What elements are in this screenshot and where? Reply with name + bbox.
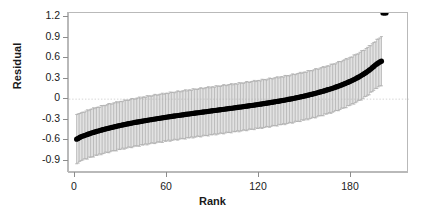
y-tick-label: 0.3 [26, 71, 60, 83]
y-axis-title: Residual [11, 26, 23, 106]
y-tick-label: -0.3 [26, 112, 60, 124]
error-bars [75, 13, 387, 164]
y-tick-label: 0.6 [26, 50, 60, 62]
x-tick-label: 180 [330, 180, 370, 192]
plot-area [68, 12, 408, 172]
x-tick-label: 120 [238, 180, 278, 192]
plot-svg [69, 13, 409, 173]
x-axis-title: Rank [0, 195, 425, 207]
y-tick-label: 0 [26, 91, 60, 103]
y-tick-label: -0.6 [26, 132, 60, 144]
x-tick-label: 0 [54, 180, 94, 192]
x-tick-label: 60 [146, 180, 186, 192]
y-tick-label: -0.9 [26, 153, 60, 165]
residual-rank-chart: Residual Rank 1.20.90.60.30-0.3-0.6-0.9 … [0, 0, 425, 222]
y-tick-label: 0.9 [26, 30, 60, 42]
y-tick-label: 1.2 [26, 9, 60, 21]
